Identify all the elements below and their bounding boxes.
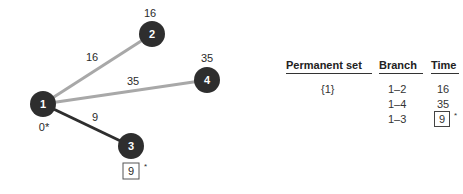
- node-value-3: 9: [128, 165, 134, 177]
- node-3: 3: [118, 133, 144, 159]
- edge-1-2: [43, 34, 152, 104]
- cell-permanent-set: {1}: [321, 83, 334, 95]
- header-underline: [379, 73, 423, 74]
- cell-time: 16: [437, 83, 449, 95]
- header-branch: Branch: [379, 59, 417, 71]
- edge-label-1-4: 35: [127, 75, 139, 87]
- node-4: 4: [194, 67, 220, 93]
- node-label: 1: [40, 98, 46, 110]
- cell-branch: 1–2: [388, 83, 406, 95]
- node-1: 1: [30, 91, 56, 117]
- cell-branch: 1–4: [388, 98, 406, 110]
- edge-1-4: [43, 80, 207, 104]
- header-permanent-set: Permanent set: [286, 59, 362, 71]
- edge-label-1-3: 9: [92, 111, 98, 123]
- edge-label-1-2: 16: [86, 51, 98, 63]
- header-time: Time: [431, 59, 456, 71]
- network-diagram: 16359 1234 0*169*35: [0, 0, 463, 194]
- node-value-4: 35: [201, 52, 213, 64]
- node-value-2: 16: [144, 7, 156, 19]
- node-label: 4: [204, 74, 211, 86]
- node-value-1: 0*: [39, 121, 50, 133]
- node-label: 3: [128, 140, 134, 152]
- header-underline: [431, 73, 459, 74]
- edge-1-3: [43, 104, 131, 146]
- header-underline: [286, 73, 372, 74]
- node-label: 2: [149, 28, 155, 40]
- permanent-star: *: [454, 111, 457, 120]
- permanent-star: *: [144, 162, 147, 171]
- cell-time-boxed: 9: [434, 111, 450, 127]
- node-2: 2: [139, 21, 165, 47]
- cell-branch: 1–3: [388, 113, 406, 125]
- cell-time: 35: [437, 98, 449, 110]
